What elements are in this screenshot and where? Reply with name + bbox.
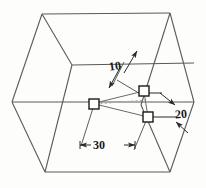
box-edge-top-left — [12, 14, 42, 102]
leader-left-marker — [81, 108, 93, 146]
dimension-10-arrow-upper — [124, 51, 137, 73]
dimension-label-30: 30 — [93, 139, 105, 151]
leader-lower-right-marker — [134, 121, 146, 150]
edge-left-near-vertical — [42, 14, 72, 65]
leader-upper-marker-10 — [117, 80, 142, 95]
technical-drawing-figure: 10 20 30 — [0, 0, 206, 188]
box-edge-top — [42, 13, 170, 14]
dimension-30-group — [80, 141, 135, 149]
dimension-label-20: 20 — [175, 108, 188, 121]
marker-upper-right — [139, 86, 149, 96]
dimension-20-arrow-upper — [160, 93, 175, 105]
dimension-label-10: 10 — [108, 59, 122, 73]
marker-lower-right — [143, 112, 153, 122]
triangle-edge-lower — [95, 104, 148, 117]
marker-left — [89, 99, 99, 109]
isometric-block-drawing — [0, 0, 206, 188]
point-markers — [89, 86, 153, 122]
edge-left-near-down — [45, 65, 72, 172]
edge-front-top-horizontal — [72, 63, 194, 65]
box-edge-bottom-left — [12, 102, 45, 172]
box-edge-top-right — [170, 13, 194, 102]
